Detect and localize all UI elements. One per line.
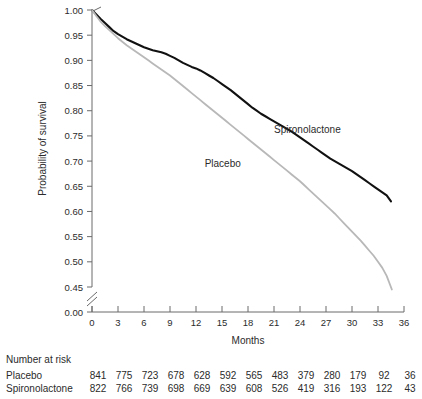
risk-value: 822 xyxy=(90,383,107,394)
number-at-risk-table: Number at riskPlacebo8417757236786285925… xyxy=(6,354,416,394)
survival-curve-figure: 0.000.450.500.550.600.650.700.750.800.85… xyxy=(0,0,422,399)
y-axis-break-icon xyxy=(87,292,97,306)
x-tick-label: 18 xyxy=(243,317,254,328)
risk-value: 122 xyxy=(376,383,393,394)
risk-value: 669 xyxy=(194,383,211,394)
x-tick-label: 36 xyxy=(399,317,410,328)
risk-value: 483 xyxy=(272,370,289,381)
x-tick-label: 27 xyxy=(321,317,332,328)
risk-value: 739 xyxy=(142,383,159,394)
x-tick-label: 15 xyxy=(217,317,228,328)
y-tick-label: 0.85 xyxy=(65,80,84,91)
risk-value: 592 xyxy=(220,370,237,381)
x-tick-label: 3 xyxy=(115,317,120,328)
x-tick-label: 6 xyxy=(141,317,146,328)
x-tick-label: 0 xyxy=(89,317,94,328)
risk-value: 193 xyxy=(350,383,367,394)
y-tick-label: 0.95 xyxy=(65,30,84,41)
risk-value: 565 xyxy=(246,370,263,381)
risk-row-label: Placebo xyxy=(6,370,43,381)
risk-value: 698 xyxy=(168,383,185,394)
y-axis-ticks: 0.000.450.500.550.600.650.700.750.800.85… xyxy=(65,5,93,318)
y-axis-top-cap xyxy=(93,7,101,11)
kaplan-meier-plot: 0.000.450.500.550.600.650.700.750.800.85… xyxy=(0,0,422,399)
survival-curve-placebo xyxy=(92,10,392,290)
risk-value: 639 xyxy=(220,383,237,394)
curve-label-spironolactone: Spironolactone xyxy=(274,124,341,135)
y-tick-label: 0.50 xyxy=(65,256,84,267)
x-tick-label: 12 xyxy=(191,317,202,328)
risk-value: 280 xyxy=(324,370,341,381)
y-tick-label: 1.00 xyxy=(65,5,84,16)
x-axis-ticks: 0369121518212427303336 xyxy=(89,306,409,328)
x-tick-label: 9 xyxy=(167,317,172,328)
y-tick-label: 0.80 xyxy=(65,105,84,116)
risk-value: 316 xyxy=(324,383,341,394)
risk-value: 775 xyxy=(116,370,133,381)
x-tick-label: 24 xyxy=(295,317,306,328)
risk-value: 678 xyxy=(168,370,185,381)
x-tick-label: 30 xyxy=(347,317,358,328)
risk-value: 379 xyxy=(298,370,315,381)
y-axis-title: Probability of survival xyxy=(37,101,48,195)
y-tick-label: 0.70 xyxy=(65,156,84,167)
risk-row-label: Spironolactone xyxy=(6,383,73,394)
y-tick-label: 0.45 xyxy=(65,282,84,293)
risk-value: 841 xyxy=(90,370,107,381)
risk-value: 36 xyxy=(404,370,416,381)
risk-value: 723 xyxy=(142,370,159,381)
y-tick-label: 0.60 xyxy=(65,206,84,217)
y-tick-label: 0.00 xyxy=(65,307,84,318)
risk-value: 92 xyxy=(378,370,390,381)
risk-value: 628 xyxy=(194,370,211,381)
x-tick-label: 33 xyxy=(373,317,384,328)
risk-value: 419 xyxy=(298,383,315,394)
x-tick-label: 21 xyxy=(269,317,280,328)
survival-curve-spironolactone xyxy=(92,10,391,201)
curve-label-placebo: Placebo xyxy=(205,158,242,169)
x-axis-title: Months xyxy=(232,335,265,346)
risk-value: 179 xyxy=(350,370,367,381)
axes xyxy=(92,10,404,312)
y-tick-label: 0.55 xyxy=(65,231,84,242)
risk-value: 766 xyxy=(116,383,133,394)
y-tick-label: 0.65 xyxy=(65,181,84,192)
y-tick-label: 0.75 xyxy=(65,130,84,141)
risk-table-title: Number at risk xyxy=(6,354,72,365)
risk-value: 43 xyxy=(404,383,416,394)
y-tick-label: 0.90 xyxy=(65,55,84,66)
risk-value: 526 xyxy=(272,383,289,394)
risk-value: 608 xyxy=(246,383,263,394)
